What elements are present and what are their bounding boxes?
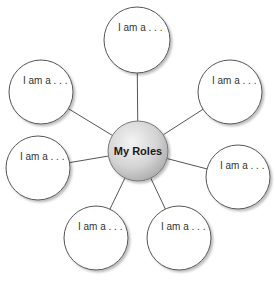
- role-circle[interactable]: [198, 60, 262, 124]
- role-node[interactable]: I am a . . .: [206, 145, 270, 209]
- connector-line: [167, 159, 207, 169]
- connector-line: [110, 178, 125, 209]
- connector-line: [163, 109, 203, 135]
- role-circle[interactable]: [206, 145, 270, 209]
- role-label: I am a . . .: [161, 221, 205, 232]
- role-label: I am a . . .: [20, 151, 64, 162]
- role-node[interactable]: I am a . . .: [147, 206, 211, 270]
- role-label: I am a . . .: [78, 221, 122, 232]
- connector-line: [70, 156, 109, 163]
- role-node[interactable]: I am a . . .: [104, 7, 170, 73]
- role-label: I am a . . .: [212, 75, 256, 86]
- role-node[interactable]: I am a . . .: [6, 136, 70, 200]
- role-label: I am a . . .: [220, 160, 264, 171]
- role-circle[interactable]: [6, 136, 70, 200]
- role-label: I am a . . .: [23, 75, 67, 86]
- connector-line: [68, 109, 112, 136]
- role-circle[interactable]: [9, 60, 73, 124]
- role-circle[interactable]: [147, 206, 211, 270]
- role-circle[interactable]: [64, 206, 128, 270]
- connector-line: [151, 178, 166, 209]
- center-node: My Roles: [108, 121, 168, 181]
- role-label: I am a . . .: [118, 22, 162, 33]
- center-label: My Roles: [114, 145, 162, 157]
- roles-web-diagram: I am a . . .I am a . . .I am a . . .I am…: [0, 0, 275, 285]
- role-node[interactable]: I am a . . .: [198, 60, 262, 124]
- role-node[interactable]: I am a . . .: [9, 60, 73, 124]
- role-circle[interactable]: [104, 7, 170, 73]
- role-node[interactable]: I am a . . .: [64, 206, 128, 270]
